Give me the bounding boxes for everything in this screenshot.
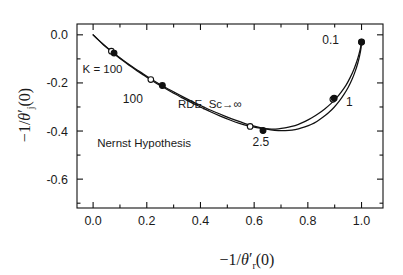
x-tick-label: 0.0 xyxy=(84,214,101,228)
data-marker-k-100 xyxy=(148,77,154,83)
data-marker-k-2p5 xyxy=(260,128,266,134)
x-tick-label: 0.2 xyxy=(138,214,155,228)
y-tick-label: -0.6 xyxy=(46,173,68,187)
x-tick-label: 0.4 xyxy=(192,214,209,228)
y-tick-label: 0.0 xyxy=(51,28,68,42)
annotation-k-equals-100: K = 100 xyxy=(83,63,123,75)
annotation-rde-sc-infinity: RDE, Sc→∞ xyxy=(178,98,242,110)
annotation-label-100: 100 xyxy=(123,92,143,106)
annotation-label-0p1: 0.1 xyxy=(322,33,339,47)
data-marker-k-100 xyxy=(159,83,165,89)
x-axis-title: −1/θ′r(0) xyxy=(220,250,275,271)
x-tick-label: 1.0 xyxy=(353,214,370,228)
data-marker-k-1 xyxy=(331,95,337,101)
annotation-label-1: 1 xyxy=(346,95,353,109)
y-tick-label: -0.2 xyxy=(46,76,68,90)
x-tick-label: 0.6 xyxy=(245,214,262,228)
annotation-label-2p5: 2.5 xyxy=(253,135,270,149)
y-tick-label: -0.4 xyxy=(46,125,68,139)
annotation-nernst-hypothesis: Nernst Hypothesis xyxy=(97,137,191,149)
x-tick-label: 0.8 xyxy=(299,214,316,228)
data-marker-k-2p5 xyxy=(247,124,253,130)
data-marker-k-100 xyxy=(111,50,117,56)
y-axis-title: −1/θ′j(0) xyxy=(15,88,36,142)
data-marker-k-0p1 xyxy=(359,39,365,45)
nyquist-plot: 0.00.20.40.60.81.0 -0.6-0.4-0.20.0 Nerns… xyxy=(0,0,403,275)
figure-container: 0.00.20.40.60.81.0 -0.6-0.4-0.20.0 Nerns… xyxy=(0,0,403,275)
